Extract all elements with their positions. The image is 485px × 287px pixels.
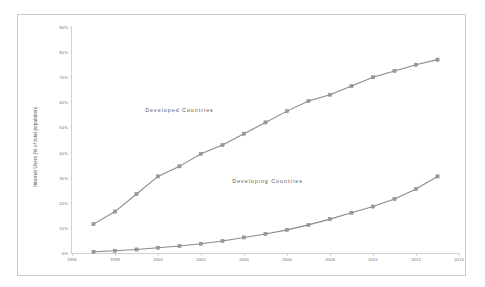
data-point-marker — [264, 232, 267, 235]
y-axis-tick-label: 60% — [59, 100, 68, 105]
data-point-marker — [436, 58, 439, 61]
data-point-marker — [113, 249, 116, 252]
data-point-marker — [135, 248, 138, 251]
x-axis-tick-label: 2012 — [411, 257, 421, 262]
data-point-marker — [242, 132, 245, 135]
y-axis-tick-label: 90% — [59, 25, 68, 30]
x-axis-tick-mark — [287, 253, 288, 256]
y-axis-tick-label: 20% — [59, 200, 68, 205]
data-point-marker — [178, 244, 181, 247]
data-point-marker — [285, 228, 288, 231]
x-axis-tick-mark — [244, 253, 245, 256]
data-point-marker — [199, 242, 202, 245]
data-point-marker — [328, 93, 331, 96]
y-axis-title: Internet Users (% of total population) — [30, 15, 40, 277]
x-axis-tick-mark — [201, 253, 202, 256]
data-point-marker — [371, 205, 374, 208]
data-point-marker — [221, 239, 224, 242]
x-axis-tick-mark — [115, 253, 116, 256]
data-point-marker — [156, 175, 159, 178]
series-line — [94, 60, 438, 224]
data-point-marker — [92, 250, 95, 253]
series-layer — [72, 27, 459, 253]
y-axis-tick-label: 30% — [59, 175, 68, 180]
x-axis-tick-label: 2002 — [196, 257, 206, 262]
data-point-marker — [178, 165, 181, 168]
series-annotation-label: Developed Countries — [145, 107, 213, 113]
data-point-marker — [436, 175, 439, 178]
x-axis-tick-mark — [72, 253, 73, 256]
data-point-marker — [393, 69, 396, 72]
data-point-marker — [350, 211, 353, 214]
y-axis-tick-label: 10% — [59, 225, 68, 230]
data-point-marker — [414, 63, 417, 66]
x-axis-tick-label: 1998 — [110, 257, 120, 262]
data-point-marker — [242, 236, 245, 239]
x-axis-tick-label: 2000 — [153, 257, 163, 262]
x-axis-tick-mark — [330, 253, 331, 256]
x-axis-tick-label: 2008 — [325, 257, 335, 262]
y-axis-tick-label: 50% — [59, 125, 68, 130]
data-point-marker — [135, 192, 138, 195]
x-axis-tick-mark — [158, 253, 159, 256]
y-axis-title-text: Internet Users (% of total population) — [33, 106, 38, 187]
series-annotation-label: Developing Countries — [232, 178, 303, 184]
x-axis-tick-mark — [416, 253, 417, 256]
data-point-marker — [221, 143, 224, 146]
x-axis-tick-label: 2010 — [368, 257, 378, 262]
data-point-marker — [264, 121, 267, 124]
x-axis-tick-label: 2014 — [454, 257, 464, 262]
data-point-marker — [350, 84, 353, 87]
series-line — [94, 176, 438, 251]
plot-area: 0%10%20%30%40%50%60%70%80%90% 1996199820… — [71, 27, 459, 254]
data-point-marker — [393, 197, 396, 200]
data-point-marker — [371, 76, 374, 79]
x-axis-tick-mark — [459, 253, 460, 256]
data-point-marker — [307, 223, 310, 226]
data-point-marker — [199, 152, 202, 155]
x-axis-tick-label: 2004 — [239, 257, 249, 262]
x-axis-tick-mark — [373, 253, 374, 256]
data-point-marker — [156, 246, 159, 249]
data-point-marker — [307, 99, 310, 102]
y-axis-tick-label: 0% — [62, 251, 68, 256]
y-axis-tick-label: 80% — [59, 50, 68, 55]
x-axis-tick-label: 2006 — [282, 257, 292, 262]
y-axis-tick-label: 70% — [59, 75, 68, 80]
data-point-marker — [113, 210, 116, 213]
x-axis-tick-label: 1996 — [67, 257, 77, 262]
data-point-marker — [285, 110, 288, 113]
y-axis-tick-label: 40% — [59, 150, 68, 155]
chart-figure: Internet Users (% of total population) 0… — [17, 14, 466, 276]
data-point-marker — [328, 218, 331, 221]
data-point-marker — [414, 187, 417, 190]
data-point-marker — [92, 223, 95, 226]
